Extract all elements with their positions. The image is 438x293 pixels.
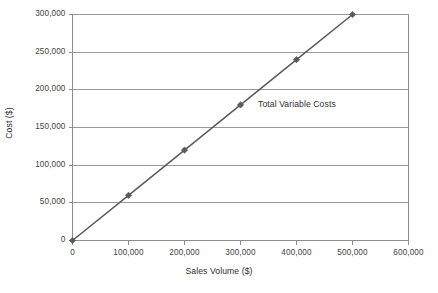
- x-tick-label-200000: 200,000: [155, 248, 215, 257]
- y-tick-label-200000: 200,000: [0, 84, 66, 93]
- x-axis-title: Sales Volume ($): [0, 266, 438, 276]
- x-tick-marks-group: [73, 241, 409, 245]
- x-tick-label-100000: 100,000: [99, 248, 159, 257]
- y-tick-label-50000: 50,000: [0, 197, 66, 206]
- y-axis-title: Cost ($): [4, 93, 14, 153]
- x-tick-label-400000: 400,000: [267, 248, 327, 257]
- series-annotation-total-variable-costs: Total Variable Costs: [258, 99, 336, 109]
- x-tick-label-300000: 300,000: [211, 248, 271, 257]
- x-tick-label-500000: 500,000: [323, 248, 383, 257]
- x-tick-label-600000: 600,000: [379, 248, 438, 257]
- y-tick-label-250000: 250,000: [0, 47, 66, 56]
- y-tick-label-0: 0: [0, 235, 66, 244]
- chart-figure: 050,000100,000150,000200,000250,000300,0…: [0, 0, 438, 293]
- y-tick-marks-group: [69, 15, 73, 241]
- y-tick-label-100000: 100,000: [0, 160, 66, 169]
- y-tick-label-300000: 300,000: [0, 9, 66, 18]
- gridlines-group: [73, 15, 409, 203]
- x-tick-label-0: 0: [43, 248, 103, 257]
